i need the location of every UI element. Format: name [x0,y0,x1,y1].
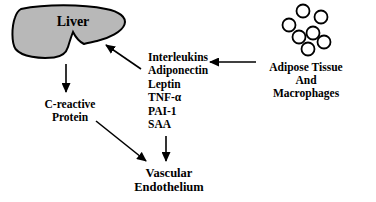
mediator-label-leptin: Leptin [148,78,208,91]
mediator-label-interleukins: Interleukins [148,51,208,64]
adipocyte-circle [297,5,310,18]
adipocyte-circle [293,31,306,44]
adipose-label: Adipose Tissue And Macrophages [254,61,358,100]
crp-label: C-reactive Protein [33,98,107,124]
adipocyte-circle [307,27,320,40]
crp-label-line2: Protein [33,111,107,124]
adipose-label-line3: Macrophages [254,87,358,100]
mediator-label-pai-1: PAI-1 [148,105,208,118]
adipocyte-circle [283,19,296,32]
adipocyte-circle [302,43,315,56]
arrow-mediators-to-liver [106,45,141,69]
crp-label-line1: C-reactive [33,98,107,111]
adipose-label-line1: Adipose Tissue [254,61,358,74]
diagram-canvas: Liver C-reactive Protein Interleukins Ad… [0,0,376,202]
mediator-label-adiponectin: Adiponectin [148,64,208,77]
mediator-label-saa: SAA [148,118,208,131]
adipocyte-cluster [283,5,331,56]
mediator-list: Interleukins Adiponectin Leptin TNF-α PA… [148,51,208,131]
vascular-label: Vascular Endothelium [121,166,217,194]
arrow-crp-to-vascular [96,121,146,161]
vascular-label-line2: Endothelium [121,180,217,194]
mediator-label-tnf-alpha: TNF-α [148,91,208,104]
adipose-label-line2: And [254,74,358,87]
liver-label: Liver [41,14,105,30]
adipocyte-circle [315,11,328,24]
vascular-label-line1: Vascular [121,166,217,180]
adipocyte-circle [318,36,331,49]
